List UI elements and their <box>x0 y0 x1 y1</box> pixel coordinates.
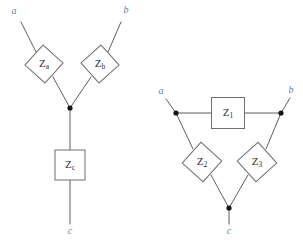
delta-node-c <box>226 205 231 210</box>
wye-center-node <box>67 105 72 110</box>
wire-b-lead <box>281 98 290 113</box>
wire-nodeb-to-z3 <box>266 113 281 149</box>
wye-terminal-a-label: a <box>12 5 17 16</box>
wire-z2-to-nodec <box>211 175 229 208</box>
delta-terminal-b-label: b <box>289 84 294 95</box>
impedance-zb-subscript: b <box>101 62 105 71</box>
delta-node-a <box>173 110 178 115</box>
wye-terminal-b-label: b <box>124 4 129 15</box>
wire-a-to-za <box>21 22 36 52</box>
delta-network: Z1 Z2 Z3 a b c <box>159 84 294 236</box>
wire-z3-to-nodec <box>229 175 248 208</box>
impedance-z1[interactable]: Z1 <box>212 98 245 129</box>
impedance-zb[interactable]: Zb <box>81 45 119 83</box>
impedance-za[interactable]: Za <box>25 45 63 83</box>
impedance-z3[interactable]: Z3 <box>237 142 277 182</box>
wire-zb-to-node <box>70 77 91 108</box>
wye-terminal-c-label: c <box>68 225 73 236</box>
wire-b-to-zb <box>108 22 121 52</box>
impedance-z3-subscript: 3 <box>258 160 262 169</box>
delta-node-b <box>278 110 283 115</box>
impedance-z2[interactable]: Z2 <box>182 142 222 182</box>
circuit-diagram: Za Zb Zc a b c <box>0 0 303 243</box>
figure-canvas: Za Zb Zc a b c <box>0 0 303 243</box>
wire-nodea-to-z2 <box>176 113 193 149</box>
impedance-zc[interactable]: Zc <box>55 150 85 180</box>
delta-terminal-a-label: a <box>159 85 164 96</box>
wire-za-to-node <box>53 77 70 108</box>
impedance-z2-subscript: 2 <box>203 160 207 169</box>
impedance-z1-subscript: 1 <box>229 111 233 120</box>
wye-network: Za Zb Zc a b c <box>12 4 129 236</box>
delta-terminal-c-label: c <box>227 225 232 236</box>
